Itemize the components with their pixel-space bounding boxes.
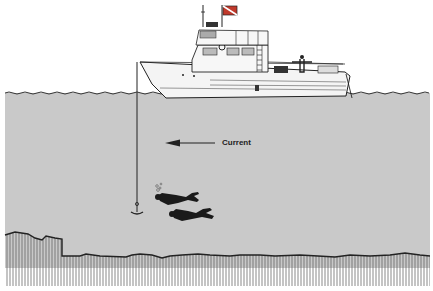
current-label: Current — [222, 138, 251, 147]
dive-boat — [140, 5, 352, 98]
diagram-canvas — [0, 0, 433, 291]
dive-flag — [222, 5, 237, 27]
water — [5, 92, 430, 268]
